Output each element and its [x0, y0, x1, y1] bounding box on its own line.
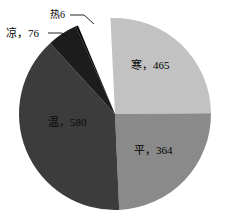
pie-label-han: 寒，465 [131, 60, 170, 71]
pie-slices [19, 18, 211, 210]
leader-line-re [70, 15, 94, 24]
pie-label-re: 热6 [50, 10, 65, 20]
pie-label-wen: 温，580 [48, 117, 87, 128]
pie-label-liang: 凉，76 [6, 28, 39, 39]
pie-slice-ping[interactable] [115, 113, 211, 210]
pie-label-ping: 平，364 [134, 145, 173, 156]
pie-chart: 寒，465 平，364 温，580 凉，76 热6 [0, 0, 232, 220]
